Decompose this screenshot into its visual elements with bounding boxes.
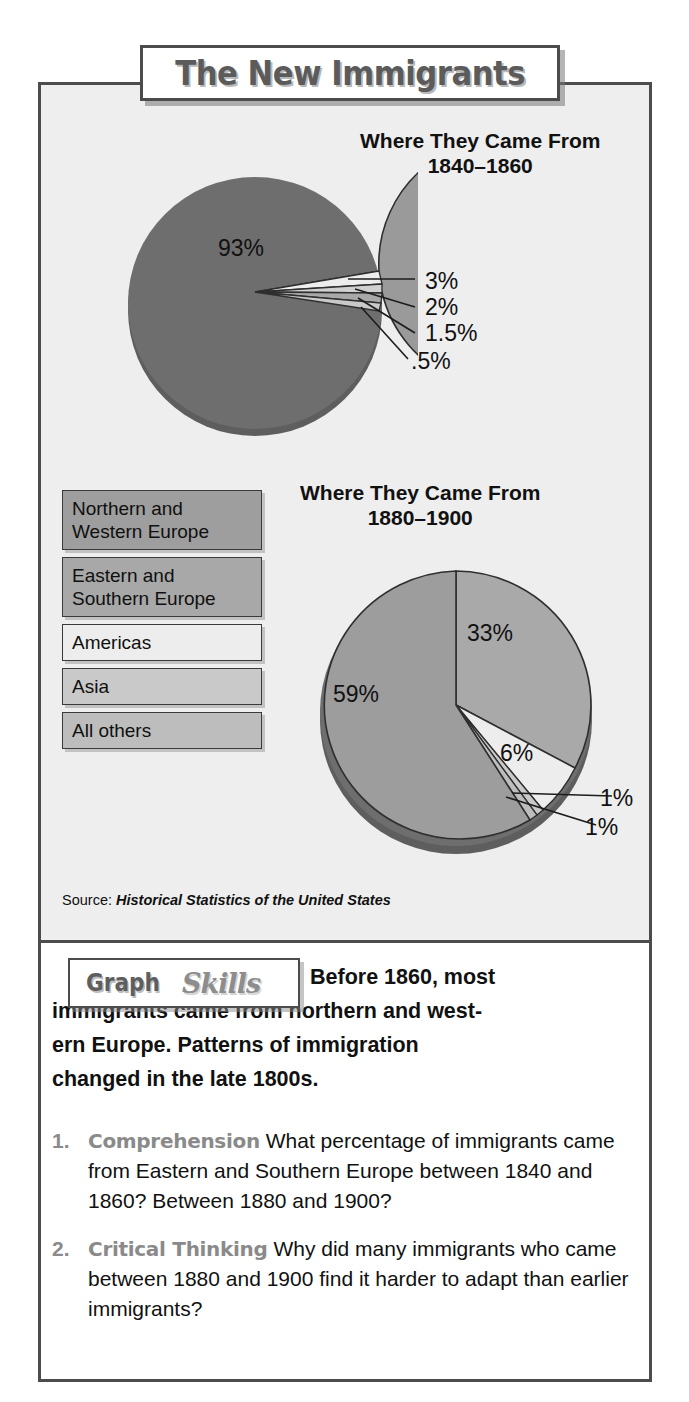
question-1-number: 1. [52,1126,70,1156]
pie1-label-1-5: 1.5% [425,320,477,347]
source-work-title: Historical Statistics of the United Stat… [116,892,391,908]
legend-label-line2: Southern Europe [72,587,261,610]
question-item-2: 2. Critical Thinking Why did many immigr… [52,1234,652,1324]
question-2-number: 2. [52,1234,70,1264]
chart2-heading-line1: Where They Came From [300,480,540,505]
legend-label-line1: All others [72,719,261,742]
question-2-label: Critical Thinking [88,1237,268,1261]
pie1-label-3: 3% [425,268,458,295]
legend-label-line1: Northern and [72,497,261,520]
legend-item-all-others[interactable]: All others [62,712,262,749]
source-note: Source: Historical Statistics of the Uni… [62,892,391,908]
graph-skills-line3: ern Europe. Patterns of immigration [52,1033,419,1057]
graph-skills-word-skills: Skills [182,968,260,999]
legend-item-eastern-southern-europe[interactable]: Eastern and Southern Europe [62,557,262,617]
legend-item-northern-western-europe[interactable]: Northern and Western Europe [62,490,262,550]
pie-chart-1840-1860 [118,135,418,445]
legend-item-asia[interactable]: Asia [62,668,262,705]
pie2-label-1-first: 1% [600,785,633,812]
legend-label-line1: Asia [72,675,261,698]
title-banner: The New Immigrants [140,45,560,101]
chart2-heading: Where They Came From 1880–1900 [300,480,540,530]
chart-legend: Northern and Western Europe Eastern and … [62,490,262,756]
pie-chart-1880-1900 [300,548,630,868]
legend-item-americas[interactable]: Americas [62,624,262,661]
graph-skills-word-graph: Graph [86,969,160,997]
graph-skills-line4: changed in the late 1800s. [52,1067,318,1091]
legend-label-line1: Eastern and [72,564,261,587]
question-item-1: 1. Comprehension What percentage of immi… [52,1126,652,1216]
pie1-label-2: 2% [425,294,458,321]
pie2-label-59: 59% [333,681,379,708]
legend-label-line2: Western Europe [72,520,261,543]
graph-skills-banner: Graph Skills [68,958,300,1008]
graph-skills-line1: Before 1860, most [310,965,495,989]
pie2-label-33: 33% [467,620,513,647]
question-1-label: Comprehension [88,1129,260,1153]
page-title: The New Immigrants [175,54,525,93]
source-prefix: Source: [62,892,116,908]
section-divider [41,940,649,943]
questions-list: 1. Comprehension What percentage of immi… [52,1126,652,1342]
pie2-label-1-second: 1% [585,814,618,841]
page-root: The New Immigrants Where They Came From … [0,0,689,1402]
pie2-label-6: 6% [500,740,533,767]
pie1-label-0-5: .5% [411,348,451,375]
legend-label-line1: Americas [72,631,261,654]
chart2-heading-line2: 1880–1900 [300,505,540,530]
pie1-label-93: 93% [218,235,264,262]
